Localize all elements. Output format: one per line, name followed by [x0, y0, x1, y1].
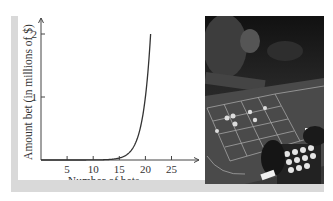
- x-tick-label: 20: [140, 163, 152, 175]
- x-tick-label: 5: [64, 163, 70, 175]
- roulette-table-photo: [205, 16, 324, 184]
- chart-area: 51015202512 Number of bets Amount bet (i…: [18, 10, 205, 180]
- roulette-photo-illustration: [205, 16, 324, 184]
- y-axis-label: Amount bet (in millions of $): [22, 24, 35, 160]
- x-tick-label: 10: [88, 163, 100, 175]
- line-chart: 51015202512 Number of bets Amount bet (i…: [18, 10, 205, 180]
- data-line: [41, 34, 151, 160]
- x-axis-label: Number of bets: [68, 175, 140, 180]
- axes: [39, 18, 200, 163]
- x-tick-label: 25: [166, 163, 178, 175]
- x-tick-label: 15: [114, 163, 126, 175]
- tick-marks: 51015202512: [32, 28, 178, 175]
